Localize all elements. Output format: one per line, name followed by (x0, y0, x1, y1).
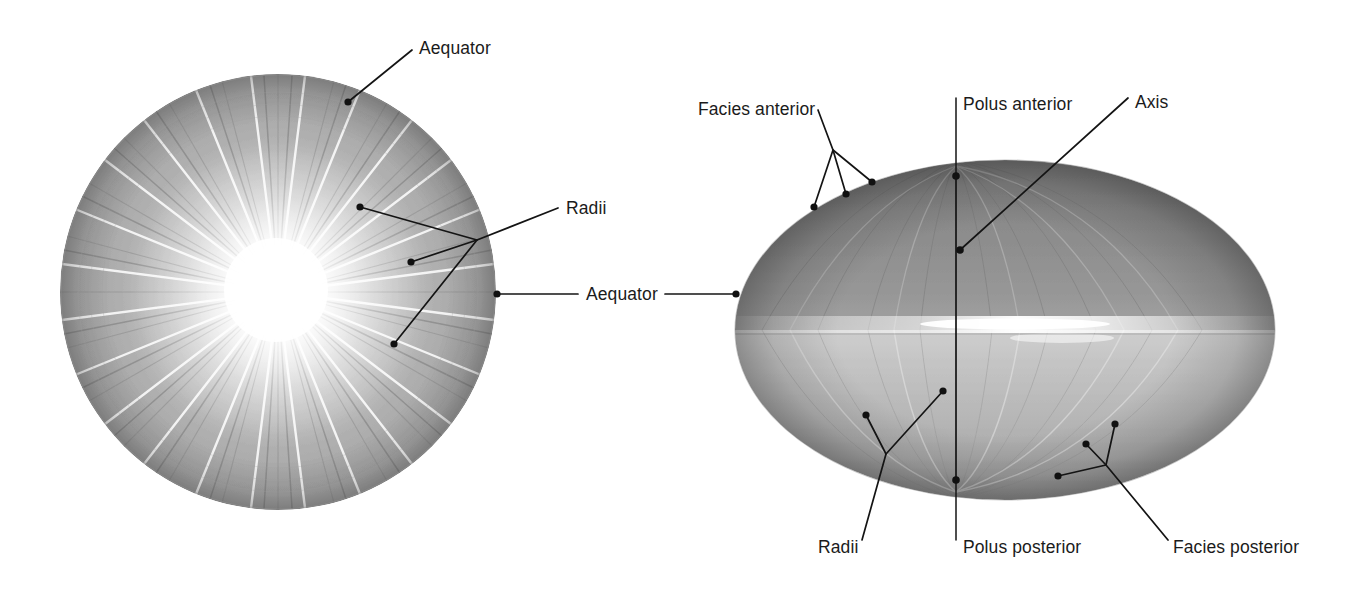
leader-endpoint-dot (939, 387, 946, 394)
label-polus-posterior: Polus posterior (963, 537, 1081, 557)
lens-anterior-specimen (60, 74, 496, 510)
figure-canvas: Aequator Radii Aequator Facies anterior … (0, 0, 1347, 589)
leader-endpoint-dot (1054, 472, 1061, 479)
leader-endpoint-dot (1082, 440, 1089, 447)
leader-endpoint-dot (810, 203, 817, 210)
label-aequator-shared: Aequator (586, 284, 658, 304)
label-facies-anterior: Facies anterior (698, 99, 815, 119)
leader-facies-anterior-b (833, 150, 846, 194)
leader-endpoint-dot (390, 340, 397, 347)
leader-facies-anterior-a (814, 110, 833, 207)
leader-endpoint-dot (1111, 420, 1118, 427)
leader-endpoint-dot (868, 178, 875, 185)
label-polus-anterior: Polus anterior (963, 94, 1072, 114)
leader-endpoint-dot (344, 98, 351, 105)
leader-endpoint-dot (862, 411, 869, 418)
label-aequator-anterior: Aequator (419, 38, 491, 58)
label-facies-posterior: Facies posterior (1173, 537, 1299, 557)
leader-endpoint-dot (407, 258, 414, 265)
leader-aequator-left (348, 50, 412, 102)
leader-endpoint-dot (493, 290, 500, 297)
leader-endpoint-dot (356, 203, 363, 210)
anatomy-figure: Aequator Radii Aequator Facies anterior … (0, 0, 1347, 589)
leader-endpoint-dot (732, 290, 739, 297)
label-radii-anterior: Radii (566, 198, 606, 218)
leader-endpoint-dot (842, 190, 849, 197)
leader-endpoint-dot (956, 246, 964, 254)
leader-facies-anterior-c (833, 150, 872, 182)
label-axis: Axis (1135, 92, 1169, 112)
label-radii-posterior: Radii (818, 537, 858, 557)
leader-endpoint-dot (952, 476, 960, 484)
